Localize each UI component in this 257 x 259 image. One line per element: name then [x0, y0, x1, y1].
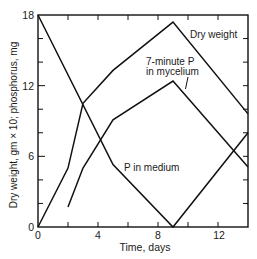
annotation-p-in-medium: P in medium: [124, 162, 179, 173]
x-axis-title: Time, days: [120, 241, 171, 253]
x-tick-label: 0: [35, 229, 41, 241]
x-tick-label: 4: [95, 229, 101, 241]
annotation-dry-weight: Dry weight: [190, 29, 237, 40]
annotation-in-mycelium: in mycelium: [146, 66, 199, 77]
y-tick-label: 18: [22, 9, 34, 21]
series-7-minute-p-line: [68, 81, 248, 207]
chart-svg: 18 12 6 0 0 4 8 12 Time, days Dry weight…: [0, 0, 257, 259]
y-tick-label: 0: [28, 221, 34, 233]
x-tick-label: 12: [213, 229, 225, 241]
chart-figure: 18 12 6 0 0 4 8 12 Time, days Dry weight…: [0, 0, 257, 259]
y-tick-label: 12: [22, 80, 34, 92]
y-tick-label: 6: [28, 150, 34, 162]
y-axis-title: Dry weight, gm × 10; phosphorus, mg: [8, 42, 19, 208]
series-lines: [38, 15, 248, 227]
annotation-pointer: [186, 77, 189, 89]
x-tick-label: 8: [155, 229, 161, 241]
